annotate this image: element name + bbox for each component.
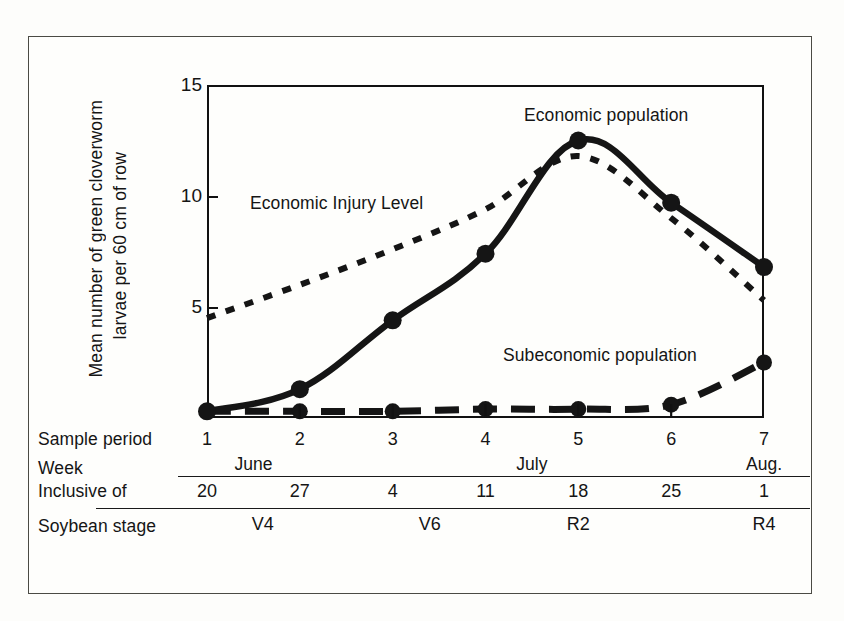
week-cell: 27 — [277, 481, 323, 502]
soybean-stage-cell: R2 — [548, 514, 608, 535]
annotation-economic-injury-level: Economic Injury Level — [250, 193, 423, 214]
y-tick-label-10: 10 — [172, 186, 202, 205]
axis-data-table: Sample period Week Inclusive of Soybean … — [28, 424, 812, 542]
sample-period-cell: 1 — [184, 429, 230, 450]
sample-period-cell: 4 — [463, 429, 509, 450]
week-cell: 20 — [184, 481, 230, 502]
economic-population-line — [207, 139, 764, 411]
week-cell: 11 — [463, 481, 509, 502]
series-economic-injury-level — [207, 156, 764, 318]
soybean-stage-cell: V6 — [400, 514, 460, 535]
sample-period-cell: 7 — [741, 429, 787, 450]
y-tick-label-5: 5 — [172, 297, 202, 316]
week-cell: 18 — [555, 481, 601, 502]
month-cell: June — [208, 454, 298, 475]
figure-container: Mean number of green cloverworm larvae p… — [0, 0, 844, 621]
economic-injury-level-line — [207, 156, 764, 318]
data-point — [477, 245, 495, 263]
week-cell: 1 — [741, 481, 787, 502]
y-axis-title: Mean number of green cloverworm larvae p… — [86, 100, 132, 420]
sample-period-cell: 2 — [277, 429, 323, 450]
sample-period-cell: 6 — [648, 429, 694, 450]
month-cell: July — [487, 454, 577, 475]
data-point — [291, 380, 309, 398]
y-axis-title-line-1: Mean number of green cloverworm — [86, 100, 107, 378]
data-point — [198, 402, 216, 420]
x-axis-tick-marks — [300, 404, 671, 418]
soybean-stage-cell: V4 — [233, 514, 293, 535]
week-cell: 25 — [648, 481, 694, 502]
plot-curves — [207, 85, 764, 418]
y-axis-title-line-2: larvae per 60 cm of row — [110, 152, 131, 339]
month-cell: Aug. — [719, 454, 809, 475]
soybean-stage-rule — [96, 508, 810, 509]
row-label-soybean-stage: Soybean stage — [38, 516, 156, 537]
data-point — [384, 311, 402, 329]
data-point — [755, 258, 773, 276]
row-label-sample-period: Sample period — [38, 429, 152, 450]
y-tick-label-15: 15 — [172, 75, 202, 94]
annotation-subeconomic-population: Subeconomic population — [503, 345, 697, 366]
data-point — [569, 132, 587, 150]
month-rule — [178, 476, 810, 477]
row-label-inclusive-of: Inclusive of — [38, 481, 127, 502]
sample-period-cell: 5 — [555, 429, 601, 450]
row-label-week: Week — [38, 458, 83, 479]
annotation-economic-population: Economic population — [524, 105, 688, 126]
economic-population-markers — [198, 132, 773, 421]
data-point — [756, 355, 772, 371]
week-cell: 4 — [370, 481, 416, 502]
series-economic-population — [198, 132, 773, 421]
sample-period-cell: 3 — [370, 429, 416, 450]
data-point — [662, 194, 680, 212]
soybean-stage-cell: R4 — [734, 514, 794, 535]
